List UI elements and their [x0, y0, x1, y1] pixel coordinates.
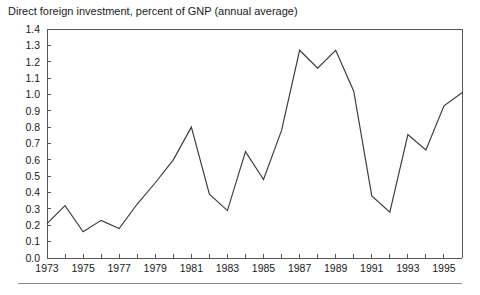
line-chart-plot: 0.00.10.20.30.40.50.60.70.80.91.01.11.21… — [0, 0, 480, 295]
x-tick-label: 1977 — [107, 262, 131, 274]
y-tick-label: 0.7 — [25, 137, 40, 149]
y-tick-label: 0.6 — [25, 154, 40, 166]
x-tick-label: 1987 — [288, 262, 312, 274]
x-axis-tick-labels: 1973197519771979198119831985198719891991… — [35, 262, 455, 274]
y-axis-tick-labels: 0.00.10.20.30.40.50.60.70.80.91.01.11.21… — [25, 23, 40, 264]
y-tick-label: 1.1 — [25, 72, 40, 84]
x-tick-label: 1973 — [35, 262, 59, 274]
y-tick-label: 0.3 — [25, 203, 40, 215]
x-tick-label: 1991 — [360, 262, 384, 274]
y-tick-label: 0.1 — [25, 235, 40, 247]
y-tick-label: 1.3 — [25, 39, 40, 51]
y-tick-label: 0.4 — [25, 186, 40, 198]
x-tick-label: 1993 — [396, 262, 420, 274]
y-tick-label: 1.4 — [25, 23, 40, 35]
y-tick-label: 0.5 — [25, 170, 40, 182]
data-series-line — [47, 50, 462, 232]
x-axis-tick-marks — [47, 254, 462, 258]
y-tick-label: 1.2 — [25, 56, 40, 68]
y-tick-label: 1.0 — [25, 88, 40, 100]
y-tick-label: 0.2 — [25, 219, 40, 231]
y-tick-label: 0.9 — [25, 105, 40, 117]
x-tick-label: 1979 — [144, 262, 168, 274]
x-tick-label: 1989 — [324, 262, 348, 274]
x-tick-label: 1983 — [216, 262, 240, 274]
x-tick-label: 1975 — [71, 262, 95, 274]
y-tick-label: 0.8 — [25, 121, 40, 133]
chart-figure: Direct foreign investment, percent of GN… — [0, 0, 480, 295]
x-tick-label: 1985 — [252, 262, 276, 274]
x-tick-label: 1981 — [180, 262, 204, 274]
x-tick-label: 1995 — [432, 262, 456, 274]
